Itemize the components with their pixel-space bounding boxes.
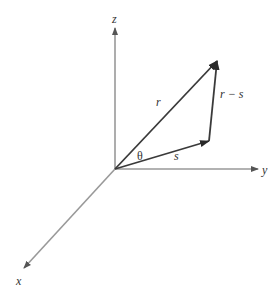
angle-theta-label: θ: [137, 149, 143, 163]
x-axis: [24, 169, 115, 268]
y-axis-label: y: [261, 163, 268, 177]
z-axis-label: z: [111, 12, 117, 26]
vector-r-label: r: [156, 95, 161, 109]
x-axis-label: x: [15, 274, 22, 288]
vector-r: [115, 61, 217, 169]
vector-r-minus-s-label: r − s: [220, 87, 244, 101]
vector-diagram: z y x r s r − s θ: [0, 0, 275, 293]
vector-s-label: s: [174, 149, 179, 163]
vector-r-minus-s: [209, 61, 217, 141]
